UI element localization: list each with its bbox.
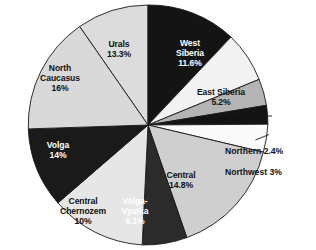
pie-chart: Urals 13.3% West Siberia 11.6% East Sibe…: [0, 0, 316, 250]
pie-label-northern: Northern 2.4%: [225, 146, 283, 156]
pie-chart-canvas: [0, 0, 316, 250]
pie-label-northwest: Northwest 3%: [225, 167, 282, 177]
pie-label-northern-text: Northern 2.4%: [225, 146, 283, 156]
pie-label-northwest-text: Northwest 3%: [225, 167, 282, 177]
pie-slices: [28, 5, 268, 245]
